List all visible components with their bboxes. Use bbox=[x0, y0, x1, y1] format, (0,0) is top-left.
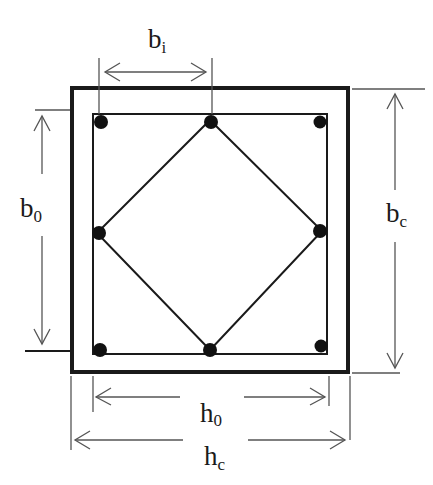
column-section-diagram: bi b0 bc h0 hc bbox=[0, 0, 433, 485]
bar-top-middle bbox=[204, 115, 218, 129]
bar-middle-left bbox=[92, 226, 106, 240]
bar-middle-right bbox=[313, 224, 327, 238]
label-bc: bc bbox=[386, 198, 408, 231]
diamond-tie bbox=[97, 120, 322, 350]
bar-top-right bbox=[314, 116, 327, 129]
longitudinal-bars bbox=[92, 115, 328, 357]
label-hc: hc bbox=[204, 441, 226, 474]
label-h0: h0 bbox=[200, 398, 222, 430]
perimeter-hoop bbox=[93, 114, 327, 354]
dimension-b0 bbox=[34, 110, 70, 344]
bar-bottom-right bbox=[315, 340, 328, 353]
label-b0: b0 bbox=[20, 193, 42, 226]
concrete-section-outline bbox=[72, 88, 348, 372]
bar-bottom-middle bbox=[203, 343, 217, 357]
label-bi: bi bbox=[148, 24, 167, 57]
dimension-bc bbox=[352, 89, 425, 373]
bar-top-left bbox=[94, 115, 108, 129]
bar-bottom-left bbox=[93, 343, 107, 357]
